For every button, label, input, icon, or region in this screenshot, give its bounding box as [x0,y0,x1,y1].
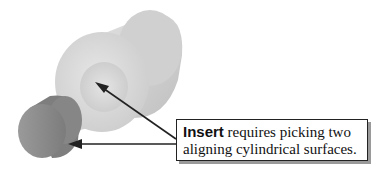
callout-keyword: Insert [183,123,224,140]
callout-line-1-rest: requires picking two [224,124,351,140]
callout-line-1: Insert requires picking two [183,123,367,141]
shaft-surface [18,104,66,158]
callout-line-2: aligning cylindrical surfaces. [183,141,367,158]
callout-box: Insert requires picking two aligning cyl… [176,119,368,161]
small-cylinder [18,96,82,159]
diagram-canvas: Insert requires picking two aligning cyl… [0,0,391,182]
